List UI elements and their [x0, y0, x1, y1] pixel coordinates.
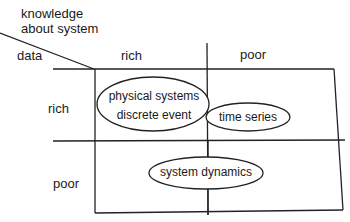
diagonal-header-line [0, 33, 94, 69]
column-axis-title-line1: knowledge [21, 6, 83, 21]
middle-row-line [53, 140, 345, 141]
ellipse-label-time-series: time series [206, 110, 290, 124]
column-axis-title-line2: about system [21, 21, 98, 36]
column-header-poor: poor [240, 47, 266, 62]
row-header-rich: rich [48, 101, 69, 116]
ellipse-label-discrete-event: discrete event [97, 108, 211, 122]
ellipse-label-system-dynamics: system dynamics [149, 165, 263, 179]
ellipse-physical-discrete [97, 77, 209, 131]
ellipse-label-physical-systems: physical systems [97, 89, 211, 103]
column-header-rich: rich [121, 48, 142, 63]
row-header-poor: poor [53, 176, 79, 191]
bottom-border-line [95, 210, 343, 213]
row-axis-title: data [17, 48, 42, 63]
